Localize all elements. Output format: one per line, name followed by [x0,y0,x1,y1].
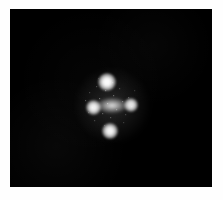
quasar-core [98,73,116,91]
sky-field [10,9,212,187]
quasar-core [102,123,118,139]
quasar-image-bottom [102,123,118,139]
astronomical-image-figure [0,0,223,200]
quasar-image-left [86,100,101,115]
quasar-image-top [98,73,116,91]
quasar-core [124,98,138,112]
lens-system [10,9,212,187]
quasar-image-right [124,98,138,112]
lensing-galaxy [97,98,127,113]
quasar-core [86,100,101,115]
